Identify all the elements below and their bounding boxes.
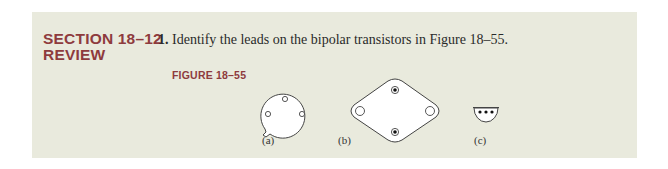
section-heading: SECTION 18–12 REVIEW bbox=[43, 31, 162, 63]
transistor-c-diagram bbox=[473, 106, 499, 124]
caption-c: (c) bbox=[474, 134, 486, 146]
caption-b: (b) bbox=[338, 134, 351, 146]
section-heading-line1: SECTION 18–12 bbox=[43, 31, 162, 47]
section-review-panel: SECTION 18–12 REVIEW 1. Identify the lea… bbox=[32, 12, 637, 158]
question-number: 1. bbox=[158, 32, 169, 47]
review-question: 1. Identify the leads on the bipolar tra… bbox=[158, 32, 508, 48]
question-text: Identify the leads on the bipolar transi… bbox=[169, 32, 508, 47]
transistor-b-diagram bbox=[348, 78, 442, 144]
caption-a: (a) bbox=[262, 134, 274, 146]
figure-label: FIGURE 18–55 bbox=[172, 69, 246, 81]
section-heading-line2: REVIEW bbox=[43, 47, 162, 63]
